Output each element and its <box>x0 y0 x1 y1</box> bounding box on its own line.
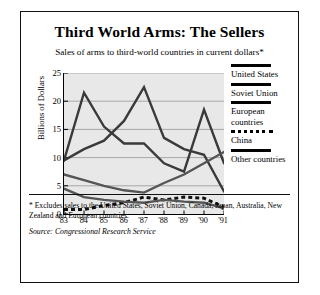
y-tick-label: 5 <box>35 182 61 191</box>
y-axis-ticks: 0510152025 <box>35 73 61 214</box>
legend-item[interactable]: Other countries <box>231 149 297 165</box>
series-line <box>64 87 224 191</box>
chart-frame: Third World Arms: The Sellers Sales of a… <box>20 11 299 283</box>
legend-label: Other countries <box>231 154 297 165</box>
footnote-text: * Excludes sales to the United States, S… <box>29 201 290 220</box>
y-tick-label: 10 <box>35 153 61 162</box>
source-text: Source: Congressional Research Service <box>29 227 290 236</box>
legend-item[interactable]: Soviet Union <box>231 83 297 99</box>
series-line <box>64 93 224 172</box>
y-tick-label: 20 <box>35 97 61 106</box>
y-tick-label: 15 <box>35 125 61 134</box>
legend-label: Soviet Union <box>231 88 297 99</box>
chart-subtitle: Sales of arms to third-world countries i… <box>27 47 292 57</box>
legend-label: China <box>231 135 297 146</box>
chart-legend: United StatesSoviet UnionEuropean countr… <box>231 64 297 167</box>
series-lines <box>64 73 224 214</box>
legend-swatch-icon <box>231 149 271 152</box>
series-line <box>64 152 224 193</box>
legend-item[interactable]: China <box>231 130 297 146</box>
legend-label: European countries <box>231 106 297 127</box>
page-title: Third World Arms: The Sellers <box>21 23 298 41</box>
legend-swatch-icon <box>231 83 271 86</box>
legend-item[interactable]: United States <box>231 64 297 80</box>
legend-swatch-icon <box>231 64 271 67</box>
y-tick-label: 25 <box>35 69 61 78</box>
legend-label: United States <box>231 69 297 80</box>
legend-item[interactable]: European countries <box>231 101 297 127</box>
notes-section: * Excludes sales to the United States, S… <box>29 194 290 236</box>
legend-swatch-icon <box>231 101 271 104</box>
legend-swatch-icon <box>231 130 273 133</box>
